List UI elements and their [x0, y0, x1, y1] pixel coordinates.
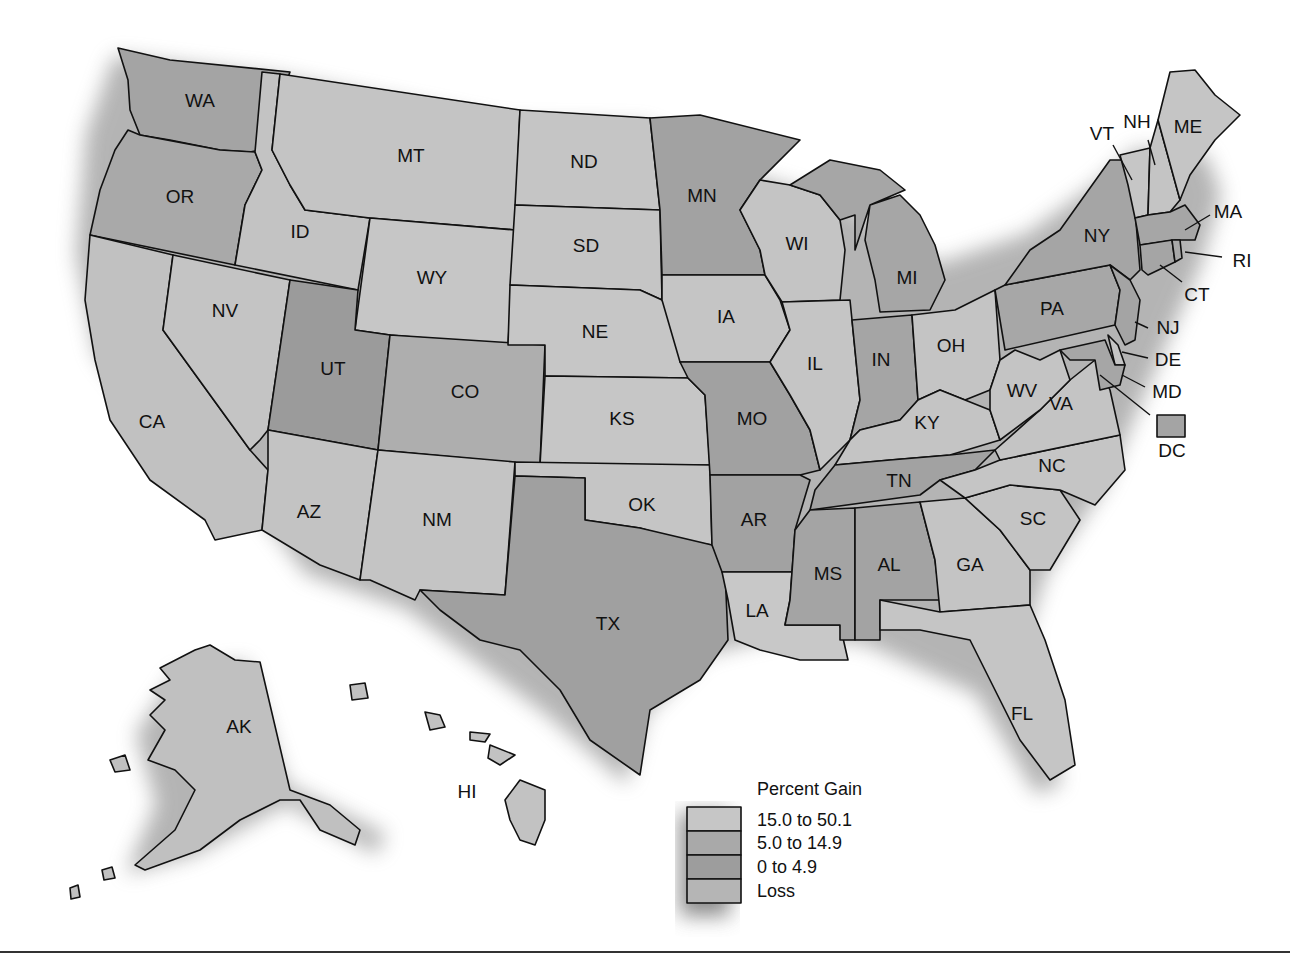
svg-text:ME: ME: [1174, 116, 1203, 137]
svg-text:ID: ID: [291, 221, 310, 242]
svg-text:CO: CO: [451, 381, 480, 402]
svg-text:SC: SC: [1020, 508, 1046, 529]
hawaii-island: [425, 712, 445, 730]
svg-text:NY: NY: [1084, 225, 1111, 246]
svg-text:KS: KS: [609, 408, 634, 429]
svg-text:AZ: AZ: [297, 501, 322, 522]
svg-text:WY: WY: [417, 267, 448, 288]
svg-text:NH: NH: [1123, 111, 1150, 132]
svg-text:WI: WI: [785, 233, 808, 254]
svg-text:UT: UT: [320, 358, 346, 379]
svg-text:AL: AL: [877, 554, 900, 575]
legend-swatch-loss: [687, 879, 741, 903]
alaska-island: [350, 683, 368, 700]
legend-label: Loss: [757, 881, 795, 901]
svg-text:MO: MO: [737, 408, 768, 429]
svg-text:VT: VT: [1090, 123, 1115, 144]
svg-text:GA: GA: [956, 554, 984, 575]
svg-text:PA: PA: [1040, 298, 1064, 319]
svg-text:TX: TX: [596, 613, 621, 634]
svg-text:SD: SD: [573, 235, 599, 256]
legend-swatch-5-15: [687, 831, 741, 855]
svg-text:NV: NV: [212, 300, 239, 321]
svg-text:NE: NE: [582, 321, 608, 342]
svg-text:DE: DE: [1155, 349, 1181, 370]
svg-text:MT: MT: [397, 145, 425, 166]
svg-text:DC: DC: [1158, 440, 1185, 461]
svg-text:WV: WV: [1007, 380, 1038, 401]
legend-label: 0 to 4.9: [757, 857, 817, 877]
state-DC[interactable]: [1157, 415, 1185, 437]
alaska-island: [110, 755, 130, 772]
svg-text:HI: HI: [458, 781, 477, 802]
svg-text:OH: OH: [937, 335, 966, 356]
state-HI[interactable]: [505, 780, 545, 845]
svg-text:MI: MI: [896, 267, 917, 288]
svg-text:MA: MA: [1214, 201, 1243, 222]
alaska-island: [70, 885, 80, 899]
legend-label: 15.0 to 50.1: [757, 810, 852, 830]
state-MT[interactable]: [272, 74, 520, 230]
svg-text:MN: MN: [687, 185, 717, 206]
svg-text:IA: IA: [717, 306, 735, 327]
svg-text:LA: LA: [745, 600, 769, 621]
legend-title: Percent Gain: [757, 779, 862, 799]
svg-text:CT: CT: [1184, 284, 1210, 305]
svg-text:IN: IN: [872, 349, 891, 370]
svg-text:WA: WA: [185, 90, 215, 111]
svg-text:KY: KY: [914, 412, 940, 433]
legend-label: 5.0 to 14.9: [757, 833, 842, 853]
legend-swatch-0-5: [687, 855, 741, 879]
hawaii-island: [488, 745, 515, 765]
legend: Percent Gain 15.0 to 50.1 5.0 to 14.9 0 …: [680, 779, 862, 916]
svg-text:TN: TN: [886, 470, 911, 491]
svg-text:RI: RI: [1233, 250, 1252, 271]
svg-text:NC: NC: [1038, 455, 1065, 476]
svg-text:FL: FL: [1011, 703, 1033, 724]
svg-text:MS: MS: [814, 563, 843, 584]
state-NY[interactable]: [1005, 160, 1140, 285]
svg-text:AR: AR: [741, 509, 767, 530]
svg-text:ND: ND: [570, 151, 597, 172]
svg-text:AK: AK: [226, 716, 252, 737]
us-choropleth-map: WA OR CA ID NV MT WY UT CO AZ NM ND SD N…: [0, 0, 1290, 965]
svg-text:IL: IL: [807, 353, 823, 374]
bottom-rule: [0, 951, 1290, 953]
svg-text:NM: NM: [422, 509, 452, 530]
svg-text:VA: VA: [1049, 393, 1073, 414]
svg-text:OK: OK: [628, 494, 656, 515]
state-AK[interactable]: [135, 645, 360, 870]
alaska-island: [102, 867, 115, 880]
svg-text:OR: OR: [166, 186, 195, 207]
svg-text:MD: MD: [1152, 381, 1182, 402]
hawaii-island: [470, 732, 490, 742]
svg-text:CA: CA: [139, 411, 166, 432]
svg-text:NJ: NJ: [1156, 317, 1179, 338]
legend-swatch-15-50: [687, 807, 741, 831]
